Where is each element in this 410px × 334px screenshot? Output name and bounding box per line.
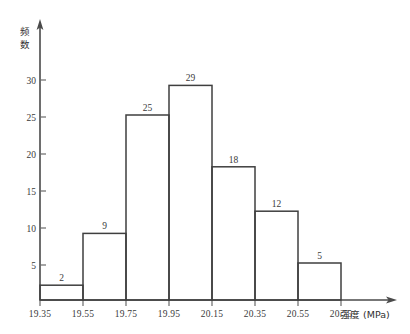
y-tick-label: 20 [27,150,37,160]
histogram-figure: 30 25 20 15 10 5 频 数 19.35 19.55 19.75 1… [0,0,410,334]
x-tick-label: 19.95 [158,309,180,319]
y-tick-label: 30 [27,76,37,86]
histogram-bar [212,167,255,300]
bars-group [40,85,341,300]
histogram-bar [255,211,298,300]
y-tick-label: 5 [31,261,36,271]
bar-value-label: 9 [102,221,107,231]
y-tick-label: 25 [27,113,37,123]
x-tick-label: 20.35 [244,309,266,319]
x-tick-label: 19.55 [72,309,94,319]
x-tick-label: 19.35 [29,309,51,319]
histogram-bar [298,263,341,300]
histogram-bar [169,85,212,300]
x-axis-title: 强度 (MPa) [340,309,390,320]
y-axis-title-char-1: 频 [20,26,30,37]
bar-value-label: 18 [229,155,239,165]
y-tick-label: 15 [27,187,37,197]
x-tick-group [40,300,341,306]
bar-value-label: 29 [186,73,196,83]
bar-value-label: 2 [59,273,64,283]
x-tick-label: 20.15 [201,309,223,319]
bar-value-label: 12 [272,199,282,209]
y-axis-title-char-2: 数 [20,39,30,50]
y-tick-label: 10 [27,224,37,234]
histogram-bar [126,115,169,300]
histogram-bar [83,233,126,300]
histogram-bar [40,285,83,300]
y-tick-group [40,80,46,265]
x-tick-label: 20.55 [287,309,309,319]
bar-value-label: 25 [143,103,153,113]
bar-value-label: 5 [317,251,322,261]
chart-canvas: 30 25 20 15 10 5 频 数 19.35 19.55 19.75 1… [0,0,410,334]
x-tick-label: 19.75 [115,309,137,319]
